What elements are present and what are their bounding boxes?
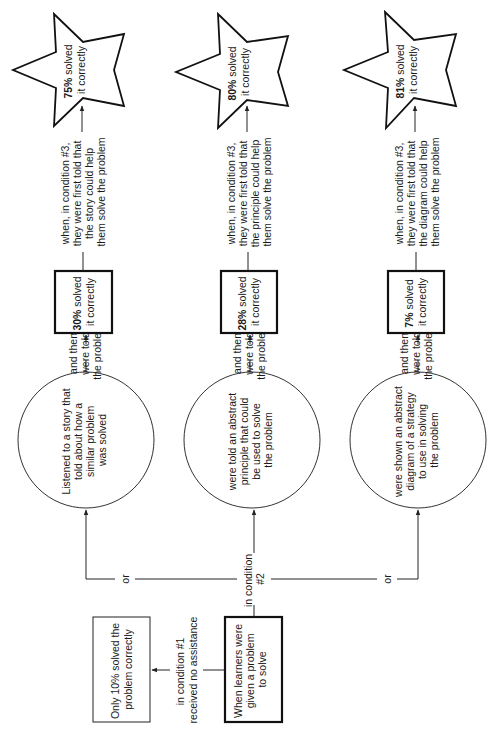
branch-diagram: were shown an abstract diagram of a stra…	[344, 12, 486, 508]
svg-text:Only 10% solved the prob: Only 10% solved the problem correctly	[109, 620, 134, 719]
condition3-text-story: when, in condition #3, they were first t…	[59, 137, 107, 246]
star-text-principle: 80% solved it correctly	[226, 43, 251, 100]
branch-principle: were told an abstract principle that cou…	[176, 14, 320, 508]
flow-diagram: When learners were given a problem to so…	[0, 0, 500, 734]
result-text-diagram: 7% solved it correctly	[403, 276, 428, 327]
start-line-3: to solve	[256, 651, 268, 687]
star-text-diagram: 81% solved it correctly	[394, 41, 419, 98]
condition1-label: in condition #1 received no assistance	[174, 616, 199, 723]
result-text-story: 30% solved it correctly	[71, 273, 96, 330]
condition3-text-principle: when, in condition #3, they were first t…	[225, 137, 273, 247]
condition1-result-line-2: problem correctly	[122, 628, 134, 709]
start-box: When learners were given a problem to so…	[225, 617, 282, 722]
condition1-result-line-1: Only 10% solved the	[109, 623, 121, 719]
or-label-right: or	[381, 574, 393, 584]
start-line-2: given a problem	[244, 633, 256, 708]
condition1-result-box: Only 10% solved the problem correctly	[93, 617, 150, 722]
branch-story: Listened to a story that told about how …	[13, 14, 154, 508]
start-line-1: When learners were	[232, 624, 244, 718]
condition3-text-diagram: when, in condition #3, they were first t…	[393, 137, 441, 246]
result-text-principle: 28% solved it correctly	[236, 273, 261, 330]
condition2-label: in condition #2	[242, 551, 266, 607]
or-label-left: or	[119, 574, 131, 584]
star-text-story: 75% solved it correctly	[62, 41, 87, 98]
